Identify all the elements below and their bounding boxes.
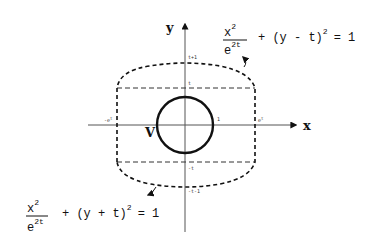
diagram-canvas: x y t+1 t 1 -t -t-1 et -et V x2 e2t + (y… xyxy=(0,0,381,242)
arrow-to-top-curve xyxy=(243,57,246,67)
tick-minus-e-t: -et xyxy=(104,116,113,123)
tick-minus-t-minus-1: -t-1 xyxy=(188,188,200,194)
arrow-to-bottom-curve xyxy=(148,187,156,195)
svg-text:+ (y + t)2= 1: + (y + t)2= 1 xyxy=(62,203,159,221)
x-axis-label: x xyxy=(303,118,311,133)
y-axis-label: y xyxy=(165,20,174,35)
svg-text:e2t: e2t xyxy=(224,40,241,58)
tick-t-plus-1: t+1 xyxy=(188,54,197,60)
tick-minus-t: -t xyxy=(188,165,194,171)
equation-top: x2 e2t + (y - t)2= 1 xyxy=(223,22,355,58)
tick-e-t: et xyxy=(258,116,264,123)
tick-t: t xyxy=(188,80,191,86)
svg-text:+ (y - t)2= 1: + (y - t)2= 1 xyxy=(258,27,355,45)
svg-text:e2t: e2t xyxy=(27,217,44,235)
region-v-label: V xyxy=(144,125,156,140)
equation-bottom: x2 e2t + (y + t)2= 1 xyxy=(26,198,159,235)
svg-text:x2: x2 xyxy=(224,22,236,40)
tick-one: 1 xyxy=(217,116,220,122)
svg-text:x2: x2 xyxy=(27,198,39,216)
